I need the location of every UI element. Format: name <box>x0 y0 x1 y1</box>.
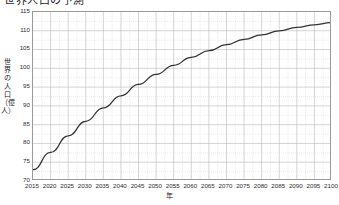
y-axis-tick-labels: 707580859095100105110115 <box>12 0 30 205</box>
y-tick-label: 105 <box>14 45 30 51</box>
y-tick-label: 100 <box>14 64 30 70</box>
x-axis-title: 年 <box>0 192 339 200</box>
y-tick-label: 95 <box>14 83 30 89</box>
y-tick-label: 75 <box>14 158 30 164</box>
y-tick-label: 85 <box>14 121 30 127</box>
major-gridlines <box>33 12 331 180</box>
minor-gridlines <box>33 12 331 180</box>
chart-figure: 世界人口の予測 世界の人口（億人） 7075808590951001051101… <box>0 0 339 205</box>
population-line-series <box>33 23 331 170</box>
y-tick-label: 110 <box>14 27 30 33</box>
plot-area <box>32 11 331 180</box>
x-tick-label: 2100 <box>316 182 339 189</box>
plot-svg <box>33 12 331 180</box>
y-tick-label: 90 <box>14 102 30 108</box>
y-tick-label: 115 <box>14 8 30 14</box>
y-tick-label: 80 <box>14 139 30 145</box>
x-axis-tick-labels: 2015202020252030203520402045205020552060… <box>32 182 331 192</box>
